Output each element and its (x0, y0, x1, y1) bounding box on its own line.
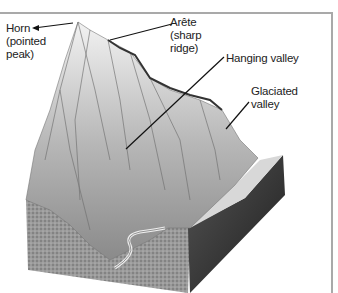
arete-leader-line (110, 24, 172, 40)
label-glaciated-valley: Glaciated valley (251, 85, 298, 111)
label-hanging-valley-line-1: Hanging valley (226, 52, 299, 65)
glacial-landform-illustration (0, 0, 338, 293)
label-horn-line-2: (pointed (6, 35, 46, 48)
label-arete-line-3: ridge) (170, 42, 201, 55)
label-arete-line-1: Arête (170, 16, 201, 29)
label-horn-line-1: Horn (6, 22, 46, 35)
label-glaciated-valley-line-2: valley (251, 98, 298, 111)
glaciated-valley-leader-line (226, 102, 249, 129)
label-arete: Arête (sharp ridge) (170, 16, 201, 55)
label-glaciated-valley-line-1: Glaciated (251, 85, 298, 98)
label-arete-line-2: (sharp (170, 29, 201, 42)
label-hanging-valley: Hanging valley (226, 52, 299, 65)
label-horn-line-3: peak) (6, 48, 46, 61)
label-horn: Horn (pointed peak) (6, 22, 46, 61)
